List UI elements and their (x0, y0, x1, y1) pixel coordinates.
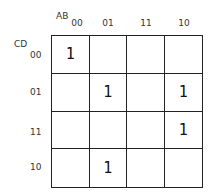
cell-r2-c1 (90, 112, 128, 150)
cell-r0-c1 (90, 36, 128, 74)
cell-r0-c2 (127, 36, 165, 74)
cell-r2-c0 (52, 112, 90, 150)
row-header-3: 10 (30, 162, 41, 172)
col-header-3: 10 (165, 18, 203, 28)
cell-r0-c3 (165, 36, 203, 74)
cell-r2-c3: 1 (165, 112, 203, 150)
row-header-2: 11 (30, 127, 41, 137)
cell-r1-c2 (127, 74, 165, 112)
cell-r2-c2 (127, 112, 165, 150)
row-header-0: 00 (30, 50, 41, 60)
col-header-2: 11 (127, 18, 165, 28)
cell-r3-c1: 1 (90, 149, 128, 187)
cell-r3-c2 (127, 149, 165, 187)
cell-r1-c3: 1 (165, 74, 203, 112)
cell-r3-c3 (165, 149, 203, 187)
cell-r0-c0: 1 (52, 36, 90, 74)
col-header-1: 01 (89, 18, 127, 28)
cell-r3-c0 (52, 149, 90, 187)
cell-r1-c0 (52, 74, 90, 112)
cell-r1-c1: 1 (90, 74, 128, 112)
kmap-grid: 1 1 1 1 1 (51, 35, 203, 188)
row-variable-label: CD (14, 40, 27, 49)
row-header-1: 01 (30, 87, 41, 97)
